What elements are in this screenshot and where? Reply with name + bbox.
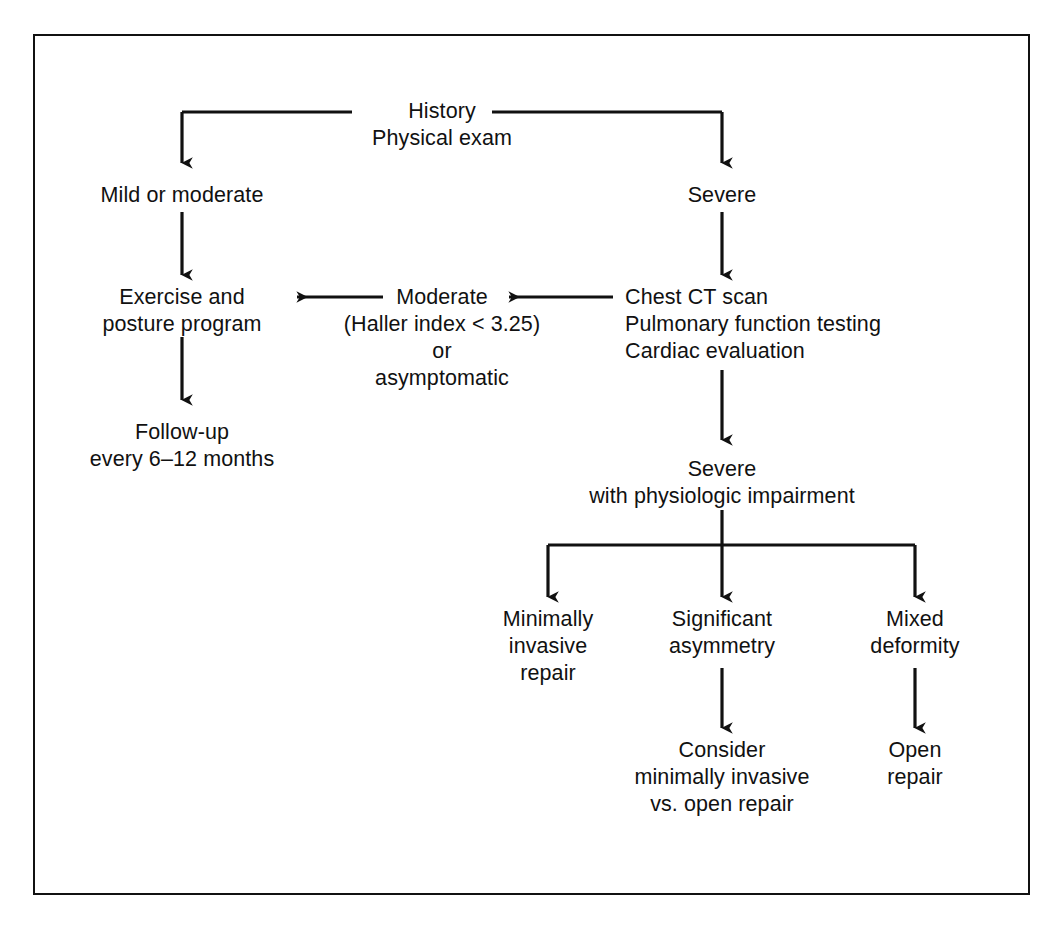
node-severe: Severe [688, 182, 757, 209]
node-open-repair: Open repair [887, 737, 943, 791]
node-history-physical-exam: History Physical exam [372, 98, 512, 152]
node-mixed-deformity: Mixed deformity [870, 606, 959, 660]
node-significant-asymmetry: Significant asymmetry [669, 606, 775, 660]
flowchart-canvas: History Physical exam Mild or moderate S… [0, 0, 1057, 927]
node-moderate-haller-index: Moderate (Haller index < 3.25) or asympt… [344, 284, 540, 392]
node-follow-up: Follow-up every 6–12 months [90, 419, 275, 473]
node-severe-with-physiologic-impairment: Severe with physiologic impairment [589, 456, 855, 510]
node-minimally-invasive-repair: Minimally invasive repair [503, 606, 594, 687]
node-mild-or-moderate: Mild or moderate [101, 182, 264, 209]
node-exercise-posture-program: Exercise and posture program [102, 284, 261, 338]
node-consider-minimally-invasive-vs-open: Consider minimally invasive vs. open rep… [634, 737, 809, 818]
node-chest-ct-workup: Chest CT scan Pulmonary function testing… [625, 284, 881, 365]
